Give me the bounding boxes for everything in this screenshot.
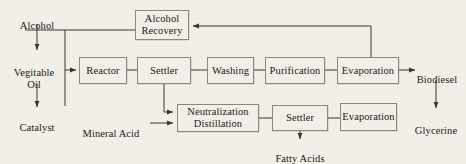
label-catalyst-text: Catalyst: [6, 122, 68, 134]
label-fatty-acids-text: Fatty Acids: [268, 153, 332, 164]
node-alcohol-recovery[interactable]: Alcohol Recovery: [135, 10, 189, 40]
node-purification[interactable]: Purification: [265, 57, 325, 84]
label-biodiesel: Biodiesel: [410, 62, 464, 98]
label-glycerine: Glycerine: [408, 113, 464, 149]
label-glycerine-text: Glycerine: [408, 125, 464, 137]
label-mineral-acid-text: Mineral Acid: [75, 128, 147, 140]
label-alcohol-text: Alcohol: [6, 20, 68, 32]
node-purification-label: Purification: [270, 65, 321, 77]
node-settler-bottom[interactable]: Settler: [272, 105, 328, 131]
node-reactor[interactable]: Reactor: [79, 57, 127, 84]
node-reactor-label: Reactor: [86, 65, 119, 77]
node-washing-label: Washing: [212, 65, 249, 77]
label-alcohol: Alcohol: [6, 8, 68, 44]
label-vegitable-oil-text: Vegitable Oil: [2, 67, 66, 91]
node-settler-top-label: Settler: [150, 65, 178, 77]
label-biodiesel-text: Biodiesel: [410, 74, 464, 86]
label-catalyst: Catalyst: [6, 110, 68, 146]
node-washing[interactable]: Washing: [207, 57, 254, 84]
node-evaporation-top-label: Evaporation: [342, 65, 394, 77]
node-alcohol-recovery-label: Alcohol Recovery: [136, 13, 188, 37]
node-evaporation-bottom-label: Evaporation: [342, 111, 394, 123]
label-mineral-acid: Mineral Acid: [75, 116, 147, 152]
node-evaporation-bottom[interactable]: Evaporation: [340, 103, 397, 131]
node-neutralization-distillation[interactable]: Neutralization Distillation: [177, 104, 259, 132]
label-fatty-acids: Fatty Acids: [268, 141, 332, 164]
node-settler-top[interactable]: Settler: [137, 57, 191, 84]
node-neutralization-distillation-label: Neutralization Distillation: [178, 106, 258, 130]
process-flow-diagram: Alcohol Recovery Reactor Settler Washing…: [0, 0, 466, 164]
connector-settler-top-to-neutralization: [164, 84, 173, 112]
node-settler-bottom-label: Settler: [286, 112, 314, 124]
connector-evaporation-top-to-alcohol-recovery: [193, 26, 371, 57]
node-evaporation-top[interactable]: Evaporation: [337, 57, 399, 84]
label-vegitable-oil: Vegitable Oil: [2, 55, 66, 103]
